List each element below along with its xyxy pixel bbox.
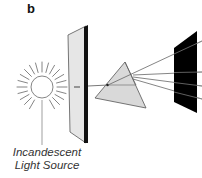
slit-plate [68,25,88,143]
panel-label: b [27,1,35,16]
light-source-caption: Incandescent Light Source [2,146,92,172]
caption-line-1: Incandescent [2,146,92,159]
spectroscope-diagram: b Incandescent Light Source [0,0,202,178]
caption-line-2: Light Source [2,159,92,172]
